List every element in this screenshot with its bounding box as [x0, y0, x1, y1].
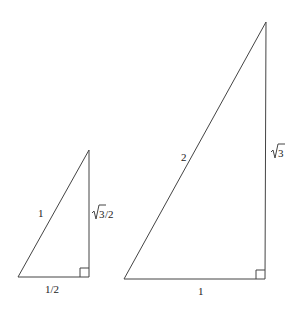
small-vertical-label: 3 /2 — [92, 205, 114, 220]
large-base-label: 1 — [198, 285, 204, 297]
large-triangle-outline — [124, 22, 266, 279]
small-triangle-outline — [18, 150, 89, 277]
small-triangle: 1 3 /2 1/2 — [18, 150, 114, 295]
small-hypotenuse-label: 1 — [38, 207, 44, 219]
large-right-angle-marker — [256, 270, 265, 279]
large-vertical-label: 3 — [271, 144, 285, 159]
large-triangle: 2 3 1 — [124, 22, 285, 297]
small-right-angle-marker — [80, 268, 89, 277]
large-hypotenuse-label: 2 — [181, 151, 187, 163]
svg-text:/2: /2 — [105, 208, 114, 220]
similar-triangles-diagram: 1 3 /2 1/2 2 3 1 — [0, 0, 300, 310]
small-base-label: 1/2 — [45, 283, 59, 295]
svg-text:3: 3 — [278, 147, 284, 159]
